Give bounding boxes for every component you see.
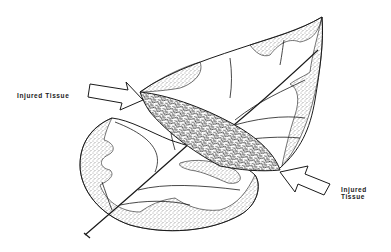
injured-tissue-label-right: Injured Tissue <box>341 186 367 200</box>
leaf-diagram: Injured Tissue Injured Tissue <box>0 0 391 252</box>
injured-tissue-label-right-line2: Tissue <box>341 193 367 200</box>
injured-tissue-label-left: Injured Tissue <box>17 92 69 99</box>
injured-tissue-label-right-line1: Injured <box>341 186 367 193</box>
leaf-illustration <box>0 0 391 252</box>
arrow-left <box>88 82 143 110</box>
arrow-right <box>280 166 330 195</box>
